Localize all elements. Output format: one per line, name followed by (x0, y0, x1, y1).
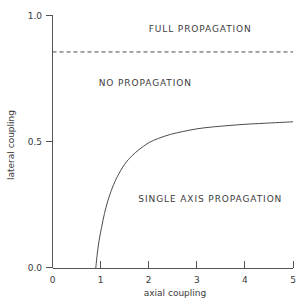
propagation-regime-chart: 1.0 0.5 0.0 0 1 2 3 4 5 axial coupling l… (0, 0, 308, 300)
x-tick-label-2: 2 (146, 275, 152, 285)
y-tick-label-0.0: 0.0 (28, 263, 43, 273)
x-axis-title: axial coupling (144, 288, 207, 298)
x-tick-label-1: 1 (98, 275, 104, 285)
region-label-full-propagation: FULL PROPAGATION (149, 24, 252, 34)
y-tick-label-0.5: 0.5 (28, 137, 42, 147)
x-tick-label-5: 5 (290, 275, 296, 285)
chart-canvas: 1.0 0.5 0.0 0 1 2 3 4 5 axial coupling l… (0, 0, 308, 300)
region-label-no-propagation: NO PROPAGATION (99, 78, 192, 88)
x-tick-label-3: 3 (194, 275, 200, 285)
x-tick-label-4: 4 (242, 275, 248, 285)
y-axis-title: lateral coupling (6, 110, 16, 180)
y-tick-label-1.0: 1.0 (28, 11, 43, 21)
region-label-single-axis-propagation: SINGLE AXIS PROPAGATION (138, 194, 282, 204)
x-tick-label-0: 0 (50, 275, 56, 285)
